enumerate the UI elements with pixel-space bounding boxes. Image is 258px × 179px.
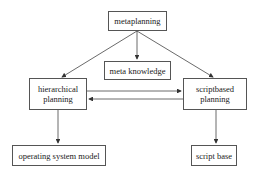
node-scriptbased-planning: scriptbased planning xyxy=(183,78,247,110)
node-label-line1: scriptbased xyxy=(196,84,234,94)
node-label: meta knowledge xyxy=(110,66,166,76)
node-label: operating system model xyxy=(18,151,99,161)
node-label-line2: planning xyxy=(200,94,230,104)
node-script-base: script base xyxy=(191,145,237,166)
node-label: script base xyxy=(196,151,232,161)
node-metaplanning: metaplanning xyxy=(108,11,167,31)
node-hierarchical-planning: hierarchical planning xyxy=(29,78,87,110)
node-label: metaplanning xyxy=(114,16,160,26)
node-operating-system-model: operating system model xyxy=(12,145,106,166)
node-label-line2: planning xyxy=(43,94,73,104)
node-meta-knowledge: meta knowledge xyxy=(104,61,171,80)
node-label-line1: hierarchical xyxy=(38,84,78,94)
